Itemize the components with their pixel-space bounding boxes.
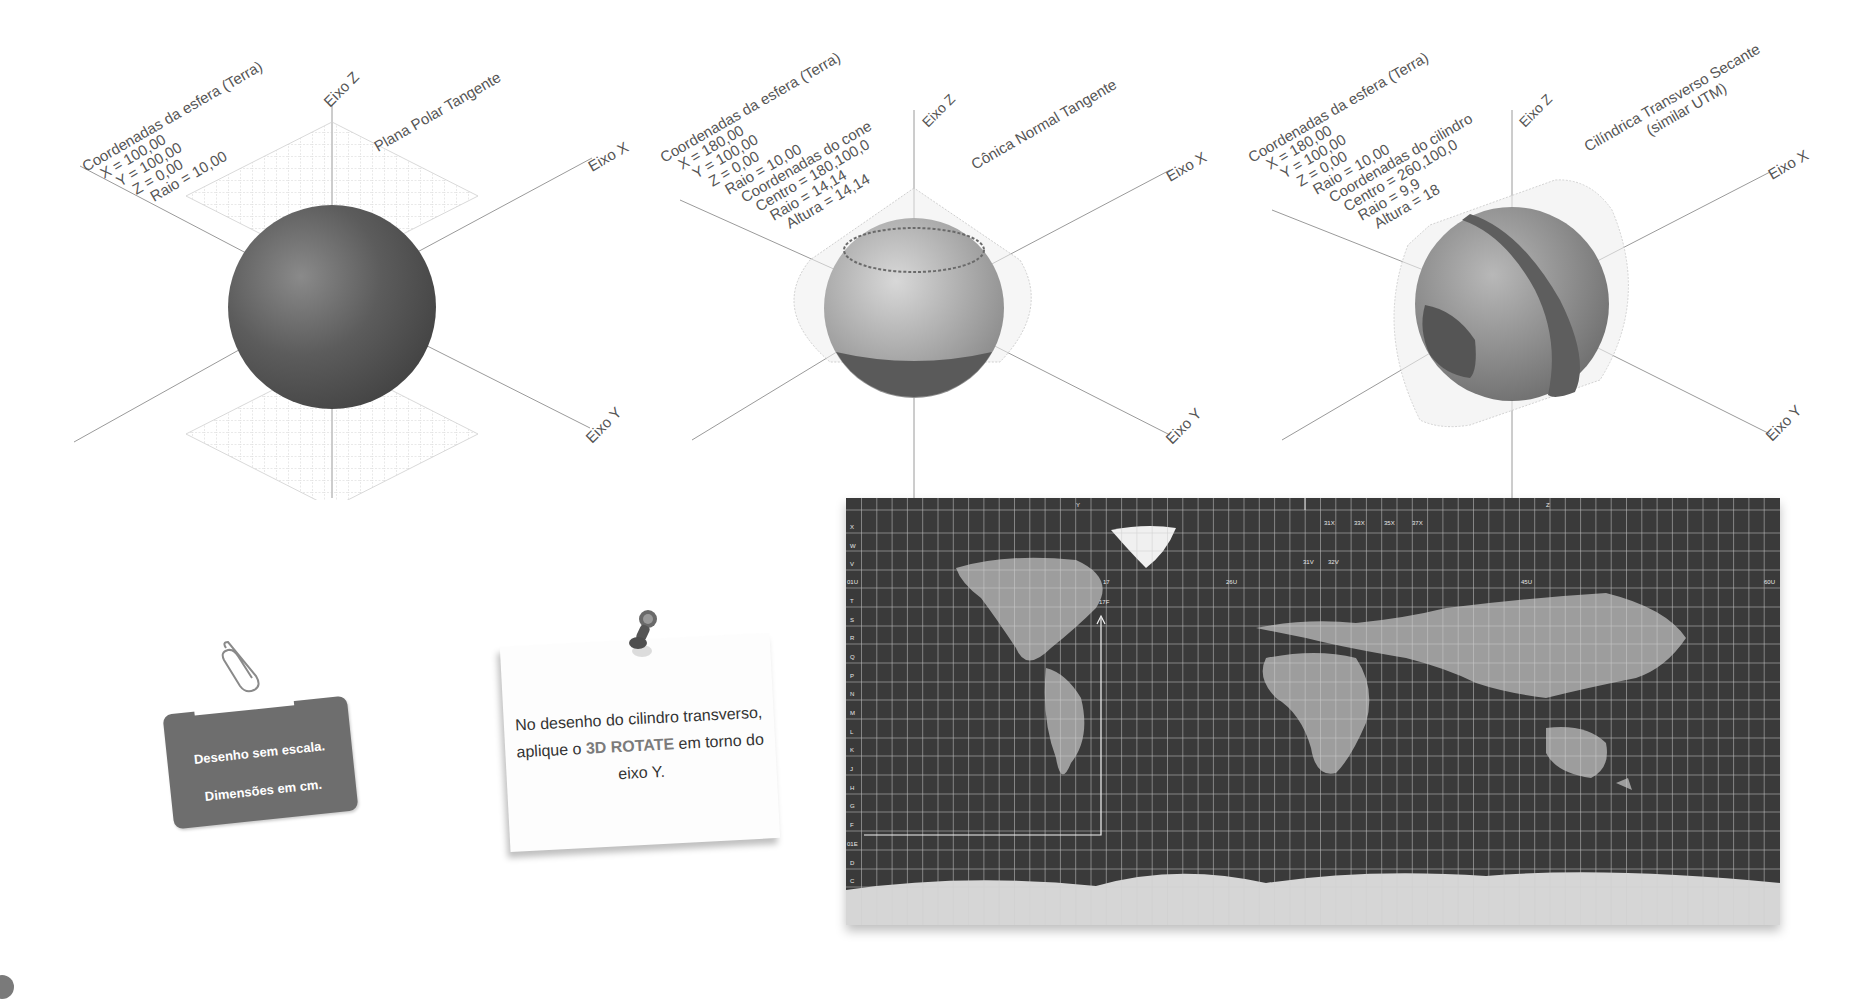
- scale-note-card: Desenho sem escala. Dimensões em cm.: [162, 696, 358, 830]
- map-label-y: Y: [1076, 502, 1080, 508]
- svg-text:C: C: [850, 878, 855, 884]
- paperclip-icon: [218, 640, 268, 700]
- utm-world-map: Y Z X W V T S R Q P N M L K J H G F D C …: [846, 498, 1780, 925]
- svg-text:31X: 31X: [1324, 520, 1335, 526]
- svg-text:37X: 37X: [1412, 520, 1423, 526]
- page-corner-shape: [0, 975, 14, 999]
- svg-text:32V: 32V: [1328, 559, 1339, 565]
- svg-text:M: M: [850, 710, 855, 716]
- svg-text:26U: 26U: [1226, 579, 1237, 585]
- note-units: Dimensões em cm.: [171, 773, 357, 807]
- axis-label-x: Eixo X: [1163, 148, 1209, 184]
- axis-label-z: Eixo Z: [919, 90, 959, 130]
- svg-text:P: P: [850, 673, 854, 679]
- axis-label-z: Eixo Z: [320, 68, 362, 110]
- diagram-title: Plana Polar Tangente: [371, 68, 503, 154]
- sticky-note: No desenho do cilindro transverso, apliq…: [500, 633, 780, 852]
- note-no-scale: Desenho sem escala.: [167, 735, 353, 769]
- svg-text:G: G: [850, 803, 855, 809]
- earth-sphere: [228, 205, 436, 409]
- diagram-cilindrica-transverso: Eixo Z Cilíndrica Transverso Secante (si…: [1245, 40, 1811, 498]
- sticky-note-text: No desenho do cilindro transverso, apliq…: [503, 698, 777, 793]
- axis-label-y: Eixo Y: [1762, 402, 1804, 444]
- svg-text:17: 17: [1103, 579, 1110, 585]
- svg-text:H: H: [850, 785, 854, 791]
- marker-label: 17F: [1099, 599, 1110, 605]
- diagram-title: Cilíndrica Transverso Secante: [1581, 40, 1763, 155]
- axis-label-x: Eixo X: [1765, 146, 1811, 182]
- earth-sphere: [1415, 207, 1609, 401]
- diagram-title: Cônica Normal Tangente: [968, 75, 1119, 172]
- axis-label-y: Eixo Y: [1162, 405, 1204, 447]
- svg-text:35X: 35X: [1384, 520, 1395, 526]
- diagram-plana-polar: Eixo Z Plana Polar Tangente Eixo X Eixo …: [74, 57, 631, 500]
- svg-text:V: V: [850, 561, 854, 567]
- map-label-z: Z: [1546, 502, 1550, 508]
- svg-text:X: X: [850, 524, 854, 530]
- svg-text:F: F: [850, 822, 854, 828]
- axis-label-z: Eixo Z: [1516, 90, 1556, 130]
- command-highlight: 3D ROTATE: [585, 735, 674, 757]
- svg-text:S: S: [850, 617, 854, 623]
- svg-text:N: N: [850, 691, 854, 697]
- svg-text:01U: 01U: [847, 579, 858, 585]
- svg-text:J: J: [850, 766, 853, 772]
- svg-text:31V: 31V: [1303, 559, 1314, 565]
- diagram-conica-normal: Eixo Z Cônica Normal Tangente Eixo X Eix…: [657, 48, 1209, 498]
- axis-label-y: Eixo Y: [582, 404, 624, 446]
- svg-text:60U: 60U: [1764, 579, 1775, 585]
- svg-text:W: W: [850, 543, 856, 549]
- svg-text:33X: 33X: [1354, 520, 1365, 526]
- svg-text:01E: 01E: [847, 841, 858, 847]
- svg-text:D: D: [850, 860, 855, 866]
- svg-text:K: K: [850, 747, 854, 753]
- svg-text:45U: 45U: [1521, 579, 1532, 585]
- svg-text:R: R: [850, 635, 855, 641]
- pushpin-icon: [618, 605, 668, 665]
- projection-diagrams: Eixo Z Plana Polar Tangente Eixo X Eixo …: [0, 0, 1851, 500]
- utm-map-graphic: Y Z X W V T S R Q P N M L K J H G F D C …: [846, 498, 1780, 925]
- axis-label-x: Eixo X: [585, 138, 631, 174]
- svg-text:Q: Q: [850, 654, 855, 660]
- svg-text:T: T: [850, 598, 854, 604]
